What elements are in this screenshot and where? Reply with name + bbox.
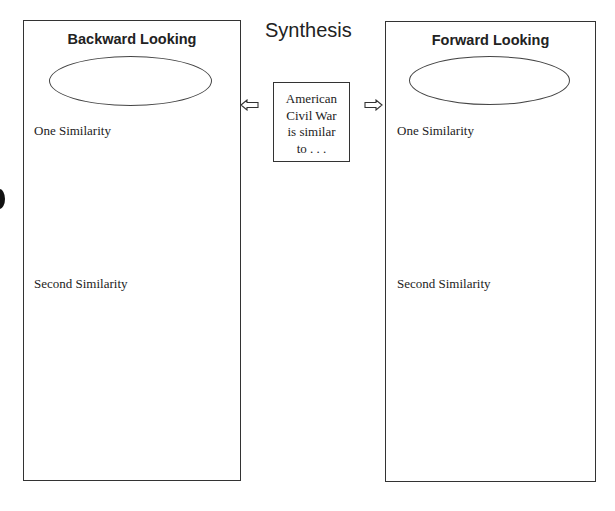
backward-looking-ellipse — [49, 56, 212, 106]
center-line-4: to . . . — [274, 141, 349, 158]
diagram-title: Synthesis — [265, 19, 352, 42]
forward-looking-panel: Forward Looking One Similarity Second Si… — [385, 21, 596, 482]
backward-first-similarity-label: One Similarity — [34, 123, 111, 139]
outline-arrow-right-icon — [363, 99, 383, 111]
center-line-1: American — [274, 91, 349, 108]
backward-looking-heading: Backward Looking — [24, 31, 240, 47]
center-line-2: Civil War — [274, 108, 349, 125]
forward-second-similarity-label: Second Similarity — [397, 276, 491, 292]
edge-artifact-mark — [0, 189, 5, 209]
backward-looking-panel: Backward Looking One Similarity Second S… — [23, 20, 241, 481]
forward-first-similarity-label: One Similarity — [397, 123, 474, 139]
center-line-3: is similar — [274, 124, 349, 141]
outline-arrow-left-icon — [240, 99, 260, 111]
center-prompt-box: American Civil War is similar to . . . — [273, 82, 350, 162]
forward-looking-ellipse — [409, 56, 570, 105]
backward-second-similarity-label: Second Similarity — [34, 276, 128, 292]
forward-looking-heading: Forward Looking — [386, 32, 595, 48]
